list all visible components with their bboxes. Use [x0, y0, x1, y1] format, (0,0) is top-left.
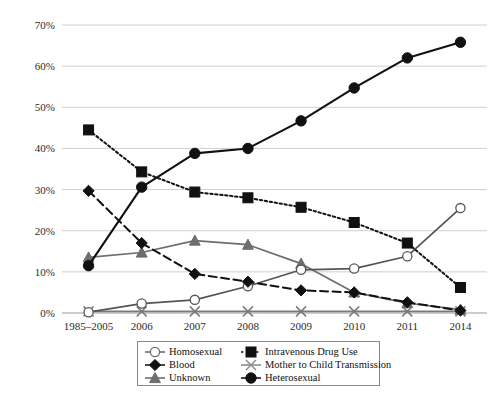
open-circle-marker — [350, 264, 359, 273]
filled-square-marker — [84, 125, 94, 135]
x-axis-tick-label: 2006 — [131, 320, 154, 332]
legend-item-blood[interactable]: Blood — [144, 358, 240, 371]
chart-container: 0%10%20%30%40%50%60%70%1985–200520062007… — [0, 0, 501, 409]
filled-square-marker — [455, 282, 465, 292]
series-intravenous-drug-use — [84, 125, 466, 293]
filled-circle-marker — [402, 53, 412, 63]
legend-item-homosexual[interactable]: Homosexual — [144, 345, 240, 358]
legend-label: Heterosexual — [265, 371, 320, 384]
y-axis-tick-label: 10% — [35, 266, 55, 278]
filled-circle-marker — [243, 143, 253, 153]
open-circle-marker — [84, 308, 93, 317]
filled-diamond-marker — [149, 359, 160, 370]
open-circle-marker — [150, 347, 159, 356]
open-circle-marker — [456, 203, 465, 212]
legend-item-heterosexual[interactable]: Heterosexual — [240, 371, 391, 384]
x-axis-tick-label: 2007 — [184, 320, 207, 332]
filled-square-marker — [243, 193, 253, 203]
series-line — [89, 191, 461, 311]
series-line — [89, 130, 461, 288]
x-axis-tick-label: 2009 — [290, 320, 313, 332]
filled-square-marker — [349, 217, 359, 227]
series-line — [89, 42, 461, 265]
open-circle-marker — [296, 265, 305, 274]
filled-circle-marker — [246, 372, 256, 382]
filled-square-marker — [190, 187, 200, 197]
filled-square-marker — [296, 202, 306, 212]
filled-circle-marker — [136, 182, 146, 192]
y-axis-tick-label: 40% — [35, 142, 55, 154]
legend-grid: Homosexual Intravenous Drug Use Blood Mo… — [144, 345, 374, 384]
y-axis-tick-label: 30% — [35, 184, 55, 196]
open-circle-marker-icon — [144, 346, 166, 358]
filled-circle-marker — [296, 116, 306, 126]
series-heterosexual — [83, 37, 465, 271]
legend-item-intravenous-drug-use[interactable]: Intravenous Drug Use — [240, 345, 391, 358]
y-axis-tick-label: 20% — [35, 225, 55, 237]
y-axis-tick-label: 50% — [35, 101, 55, 113]
x-axis-tick-label: 2008 — [237, 320, 260, 332]
legend-label: Unknown — [169, 371, 210, 384]
filled-square-marker — [137, 167, 147, 177]
x-axis-tick-label: 2010 — [343, 320, 366, 332]
legend-label: Homosexual — [169, 345, 222, 358]
filled-circle-marker-icon — [240, 372, 262, 384]
legend-label: Blood — [169, 358, 195, 371]
y-axis-tick-label: 70% — [35, 19, 55, 31]
filled-square-marker — [246, 347, 256, 357]
x-axis-tick-label: 2011 — [397, 320, 419, 332]
filled-triangle-marker-icon — [144, 372, 166, 384]
filled-diamond-marker — [189, 268, 200, 279]
x-axis-tick-label: 1985–2005 — [64, 320, 114, 332]
y-axis-tick-label: 60% — [35, 60, 55, 72]
filled-diamond-marker-icon — [144, 359, 166, 371]
legend-label: Intravenous Drug Use — [265, 345, 358, 358]
open-circle-marker — [137, 299, 146, 308]
filled-circle-marker — [190, 148, 200, 158]
filled-diamond-marker — [295, 285, 306, 296]
filled-circle-marker — [349, 83, 359, 93]
legend-label: Mother to Child Transmission — [265, 358, 391, 371]
open-circle-marker — [403, 252, 412, 261]
filled-circle-marker — [83, 260, 93, 270]
legend-item-mother-to-child-transmission[interactable]: Mother to Child Transmission — [240, 358, 391, 371]
cross-x-marker-icon — [240, 359, 262, 371]
chart-legend: Homosexual Intravenous Drug Use Blood Mo… — [137, 341, 380, 386]
filled-circle-marker — [455, 37, 465, 47]
open-circle-marker — [190, 295, 199, 304]
filled-square-marker — [402, 238, 412, 248]
y-axis-tick-label: 0% — [40, 307, 55, 319]
x-axis-tick-label: 2014 — [449, 320, 472, 332]
filled-square-marker-icon — [240, 346, 262, 358]
legend-item-unknown[interactable]: Unknown — [144, 371, 240, 384]
